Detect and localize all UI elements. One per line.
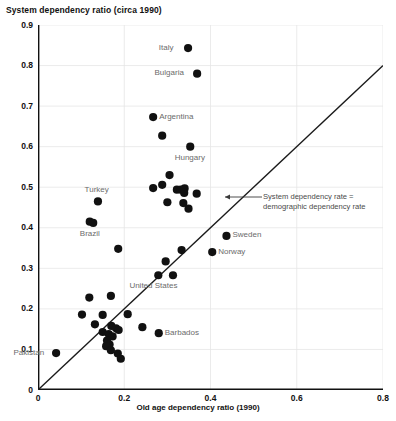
data-point[interactable] — [107, 292, 115, 300]
data-point[interactable] — [193, 190, 201, 198]
data-point[interactable] — [162, 257, 170, 265]
x-axis-label: Old age dependency ratio (1990) — [0, 403, 396, 412]
data-point[interactable] — [193, 70, 201, 78]
y-tick-label: 0.8 — [21, 60, 33, 70]
point-label: Bulgaria — [155, 68, 184, 77]
point-label: Italy — [159, 43, 174, 52]
data-point[interactable] — [138, 323, 146, 331]
point-label: Argentina — [159, 112, 193, 121]
y-tick-label: 0.2 — [21, 303, 33, 313]
data-point[interactable] — [184, 205, 192, 213]
x-tick-label: 0.2 — [118, 393, 130, 403]
data-point[interactable] — [186, 143, 194, 151]
y-tick-label: 0.3 — [21, 263, 33, 273]
data-point[interactable] — [52, 349, 60, 357]
data-point[interactable] — [89, 219, 97, 227]
y-tick-label: 0.5 — [21, 182, 33, 192]
y-tick-label: 0.4 — [21, 222, 33, 232]
annotation-line-2: demographic dependency rate — [263, 202, 366, 212]
data-point[interactable] — [222, 232, 230, 240]
data-point[interactable] — [165, 171, 173, 179]
point-label: Barbados — [165, 328, 199, 337]
data-point[interactable] — [115, 326, 123, 334]
chart-container: System dependency ratio (circa 1990) 00.… — [0, 0, 396, 421]
annotation-line-1: System dependency rate = — [263, 192, 366, 202]
x-tick-label: 0.6 — [291, 393, 303, 403]
data-point[interactable] — [114, 245, 122, 253]
data-point[interactable] — [149, 113, 157, 121]
x-tick-label: 0.8 — [377, 393, 389, 403]
data-point[interactable] — [158, 181, 166, 189]
point-label: Brazil — [80, 229, 100, 238]
data-point[interactable] — [184, 44, 192, 52]
y-tick-label: 0.9 — [21, 20, 33, 30]
x-tick-label: 0 — [36, 393, 41, 403]
point-label: Turkey — [85, 185, 109, 194]
data-point[interactable] — [149, 184, 157, 192]
data-point[interactable] — [208, 248, 216, 256]
reference-line-annotation: System dependency rate = demographic dep… — [263, 192, 366, 213]
data-point[interactable] — [158, 132, 166, 140]
data-point[interactable] — [117, 355, 125, 363]
data-point[interactable] — [94, 197, 102, 205]
x-tick-label: 0.4 — [205, 393, 217, 403]
data-point[interactable] — [155, 329, 163, 337]
y-axis-ticks: 00.10.20.30.40.50.60.70.80.9 — [0, 0, 33, 421]
y-tick-label: 0.6 — [21, 141, 33, 151]
data-point[interactable] — [180, 189, 188, 197]
y-tick-label: 0.7 — [21, 101, 33, 111]
data-point[interactable] — [169, 271, 177, 279]
data-point[interactable] — [78, 310, 86, 318]
point-label: Sweden — [232, 230, 261, 239]
data-point[interactable] — [85, 293, 93, 301]
data-point[interactable] — [91, 320, 99, 328]
data-point[interactable] — [163, 198, 171, 206]
data-point[interactable] — [124, 310, 132, 318]
point-label: United States — [129, 281, 177, 290]
data-point[interactable] — [99, 311, 107, 319]
data-point[interactable] — [154, 271, 162, 279]
annotation-arrow-head — [225, 194, 230, 199]
point-label: Norway — [218, 247, 245, 256]
data-point[interactable] — [178, 246, 186, 254]
point-label: Hungary — [175, 153, 205, 162]
point-label: Pakistan — [14, 348, 45, 357]
y-tick-label: 0 — [28, 385, 33, 395]
